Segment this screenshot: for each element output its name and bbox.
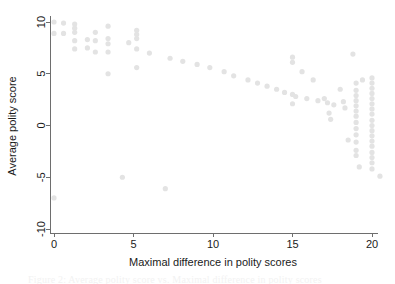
data-point — [354, 126, 359, 131]
data-point — [369, 101, 374, 106]
data-point — [105, 71, 110, 76]
data-point — [245, 77, 250, 82]
data-point — [369, 112, 374, 117]
data-point — [105, 36, 110, 41]
data-point — [134, 46, 139, 51]
data-point — [354, 93, 359, 98]
data-point — [354, 108, 359, 113]
data-point — [222, 69, 227, 74]
data-point — [290, 60, 295, 65]
data-point — [93, 30, 98, 35]
data-point — [105, 41, 110, 46]
data-point — [72, 46, 77, 51]
data-point — [369, 155, 374, 160]
y-tick-label: 0 — [35, 122, 47, 128]
data-point — [338, 87, 343, 92]
data-point — [369, 123, 374, 128]
x-tick-label: 0 — [51, 238, 57, 250]
x-axis-title: Maximal difference in polity scores — [129, 256, 297, 268]
figure-panel: 05101520-10-50510 Maximal difference in … — [0, 0, 395, 284]
y-tick-label: 5 — [35, 71, 47, 77]
data-point — [147, 50, 152, 55]
data-point — [360, 77, 365, 82]
data-point — [354, 80, 359, 85]
data-point — [134, 36, 139, 41]
data-point — [369, 138, 374, 143]
data-point — [342, 105, 347, 110]
data-point — [274, 87, 279, 92]
data-point — [61, 20, 66, 25]
data-point — [354, 153, 359, 158]
data-point — [369, 128, 374, 133]
data-point — [354, 114, 359, 119]
data-point — [72, 30, 77, 35]
data-point — [167, 56, 172, 61]
data-point — [105, 49, 110, 54]
data-point — [293, 94, 298, 99]
data-point — [328, 117, 333, 122]
data-point — [350, 51, 355, 56]
data-point — [72, 38, 77, 43]
axis-labels-layer: 05101520-10-50510 — [35, 16, 378, 250]
data-point — [264, 84, 269, 89]
y-tick-label: -10 — [35, 221, 47, 237]
data-point — [290, 101, 295, 106]
data-point — [369, 118, 374, 123]
data-point — [354, 88, 359, 93]
data-point — [354, 148, 359, 153]
data-point — [369, 166, 374, 171]
data-point — [315, 98, 320, 103]
data-point — [105, 24, 110, 29]
data-point — [61, 31, 66, 36]
x-tick-label: 10 — [207, 238, 219, 250]
y-tick-label: -5 — [35, 172, 47, 182]
data-point — [354, 139, 359, 144]
data-point — [51, 195, 56, 200]
data-point — [341, 99, 346, 104]
data-point — [85, 45, 90, 50]
data-point — [369, 106, 374, 111]
data-point — [51, 19, 56, 24]
data-point — [369, 144, 374, 149]
data-point — [331, 102, 336, 107]
figure-caption-strip: Figure 2: Average polity score vs. Maxim… — [0, 272, 395, 284]
data-point — [354, 132, 359, 137]
data-point — [51, 31, 56, 36]
data-point — [369, 133, 374, 138]
data-point — [369, 160, 374, 165]
data-point — [354, 98, 359, 103]
data-point — [120, 175, 125, 180]
data-point — [304, 96, 309, 101]
x-tick-label: 15 — [286, 238, 298, 250]
data-point — [325, 100, 330, 105]
scatter-plot: 05101520-10-50510 Maximal difference in … — [0, 0, 395, 284]
data-point — [357, 164, 362, 169]
data-point — [369, 80, 374, 85]
x-tick-label: 20 — [366, 238, 378, 250]
data-point — [311, 77, 316, 82]
data-points-layer — [51, 19, 382, 200]
data-point — [231, 73, 236, 78]
data-point — [369, 75, 374, 80]
data-point — [290, 55, 295, 60]
data-point — [126, 40, 131, 45]
data-point — [369, 86, 374, 91]
data-point — [195, 62, 200, 67]
y-axis-title: Average polity score — [6, 76, 18, 175]
data-point — [180, 59, 185, 64]
data-point — [282, 90, 287, 95]
data-point — [346, 137, 351, 142]
axes-layer — [46, 16, 378, 237]
data-point — [163, 186, 168, 191]
data-point — [93, 38, 98, 43]
data-point — [85, 37, 90, 42]
data-point — [377, 174, 382, 179]
data-point — [369, 150, 374, 155]
data-point — [207, 65, 212, 70]
x-tick-label: 5 — [130, 238, 136, 250]
data-point — [354, 103, 359, 108]
data-point — [369, 91, 374, 96]
data-point — [354, 120, 359, 125]
data-point — [322, 96, 327, 101]
data-point — [134, 65, 139, 70]
